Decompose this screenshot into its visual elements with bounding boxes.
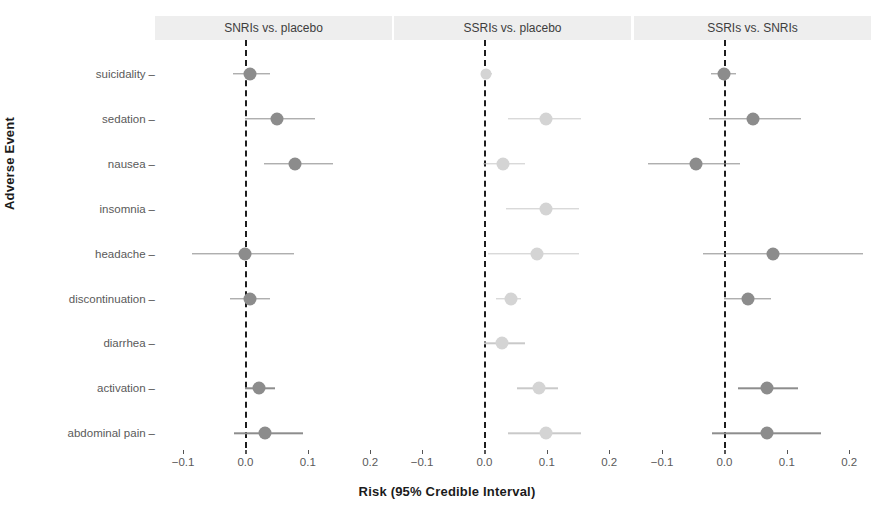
y-tick-mark: – [146, 68, 155, 80]
x-tick-label: −0.1 [172, 456, 195, 468]
panel-ssris-vs-placebo: SSRIs vs. placebo [394, 16, 631, 448]
x-axis-panel-2: −0.10.00.10.2 [634, 450, 871, 476]
point-estimate-nausea [497, 157, 510, 170]
y-axis-tick-discontinuation: discontinuation– [5, 293, 155, 305]
x-tick-mark [370, 450, 371, 454]
x-tick-mark [609, 450, 610, 454]
panel-plot-area [155, 40, 392, 448]
y-tick-label-text: insomnia [100, 203, 146, 215]
point-estimate-abdominal-pain [259, 427, 272, 440]
panel-strip-label: SSRIs vs. SNRIs [634, 16, 871, 40]
x-tick-mark [422, 450, 423, 454]
x-tick-label: 0.0 [716, 456, 732, 468]
panel-plot-area [634, 40, 871, 448]
x-tick-mark [245, 450, 246, 454]
x-tick-mark [724, 450, 725, 454]
point-estimate-suicidality [718, 68, 731, 81]
y-tick-mark: – [146, 203, 155, 215]
point-estimate-headache [239, 247, 252, 260]
y-tick-mark: – [146, 248, 155, 260]
point-estimate-suicidality [481, 69, 492, 80]
point-estimate-insomnia [539, 202, 552, 215]
point-estimate-activation [253, 382, 266, 395]
zero-reference-line [484, 40, 486, 448]
panel-ssris-vs-snris: SSRIs vs. SNRIs [634, 16, 871, 448]
y-axis-tick-nausea: nausea– [5, 158, 155, 170]
panel-strip-label: SSRIs vs. placebo [394, 16, 631, 40]
x-tick-mark [547, 450, 548, 454]
forest-plot-figure: Adverse Event suicidality–sedation–nause… [0, 0, 894, 514]
y-axis-tick-sedation: sedation– [5, 113, 155, 125]
point-estimate-nausea [289, 157, 302, 170]
x-tick-label: 0.2 [362, 456, 378, 468]
x-tick-label: 0.1 [779, 456, 795, 468]
y-tick-mark: – [146, 337, 155, 349]
x-tick-mark [662, 450, 663, 454]
panel-snris-vs-placebo: SNRIs vs. placebo [155, 16, 392, 448]
x-tick-label: 0.1 [539, 456, 555, 468]
x-tick-label: 0.0 [476, 456, 492, 468]
x-tick-label: 0.1 [300, 456, 316, 468]
point-estimate-nausea [690, 157, 703, 170]
y-tick-label-text: suicidality [96, 68, 146, 80]
y-tick-label-text: activation [97, 382, 146, 394]
y-tick-mark: – [146, 427, 155, 439]
point-estimate-activation [533, 382, 546, 395]
x-tick-label: 0.2 [601, 456, 617, 468]
x-axis-panel-1: −0.10.00.10.2 [394, 450, 631, 476]
x-axis-panel-0: −0.10.00.10.2 [155, 450, 392, 476]
y-tick-label-text: discontinuation [69, 293, 146, 305]
x-tick-mark [484, 450, 485, 454]
y-tick-mark: – [146, 113, 155, 125]
point-estimate-discontinuation [742, 292, 755, 305]
y-axis-tick-abdominal-pain: abdominal pain– [5, 427, 155, 439]
point-estimate-discontinuation [244, 292, 257, 305]
y-tick-mark: – [146, 158, 155, 170]
point-estimate-headache [531, 247, 544, 260]
y-tick-label-text: abdominal pain [68, 427, 146, 439]
x-tick-mark [183, 450, 184, 454]
y-axis-tick-activation: activation– [5, 382, 155, 394]
y-axis-tick-headache: headache– [5, 248, 155, 260]
x-tick-label: −0.1 [651, 456, 674, 468]
x-tick-label: 0.0 [237, 456, 253, 468]
x-axis-title: Risk (95% Credible Interval) [0, 484, 894, 499]
y-tick-label-text: headache [95, 248, 146, 260]
point-estimate-activation [760, 382, 773, 395]
point-estimate-abdominal-pain [539, 427, 552, 440]
y-tick-mark: – [146, 293, 155, 305]
credible-interval-headache [703, 253, 863, 254]
y-axis-tick-insomnia: insomnia– [5, 203, 155, 215]
panel-strip-label: SNRIs vs. placebo [155, 16, 392, 40]
y-tick-mark: – [146, 382, 155, 394]
zero-reference-line [724, 40, 726, 448]
point-estimate-suicidality [244, 68, 257, 81]
y-tick-label-text: diarrhea [103, 337, 145, 349]
y-axis-tick-diarrhea: diarrhea– [5, 337, 155, 349]
point-estimate-diarrhea [495, 337, 508, 350]
point-estimate-sedation [747, 112, 760, 125]
x-tick-label: 0.2 [841, 456, 857, 468]
point-estimate-headache [767, 247, 780, 260]
y-axis-tick-suicidality: suicidality– [5, 68, 155, 80]
point-estimate-sedation [270, 112, 283, 125]
y-tick-label-text: sedation [102, 113, 145, 125]
x-tick-label: −0.1 [411, 456, 434, 468]
panel-plot-area [394, 40, 631, 448]
point-estimate-abdominal-pain [760, 427, 773, 440]
x-tick-mark [849, 450, 850, 454]
y-tick-label-text: nausea [108, 158, 146, 170]
y-axis-tick-labels: suicidality–sedation–nausea–insomnia–hea… [0, 0, 155, 470]
point-estimate-sedation [539, 112, 552, 125]
x-tick-mark [308, 450, 309, 454]
point-estimate-discontinuation [504, 292, 517, 305]
x-tick-mark [787, 450, 788, 454]
